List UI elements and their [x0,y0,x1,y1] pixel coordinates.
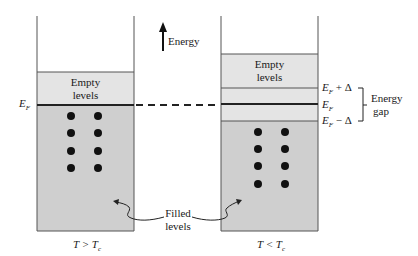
energy-gap-label-line1: Energy [371,92,403,104]
right-condition-label: T < Tc [257,238,285,255]
energy-axis-label: Energy [168,35,200,47]
filled-label-line1: Filled [158,207,198,219]
energy-gap-bracket [358,88,367,121]
left-condition-label: T > Tc [73,238,101,255]
left-empty-label-line2: levels [37,89,134,101]
left-empty-label-line1: Empty [37,76,134,88]
filled-label-line2: levels [158,220,198,232]
right-fermi-label: EF [322,98,333,115]
right-empty-label-line2: levels [221,71,318,83]
right-empty-label-line1: Empty [221,58,318,70]
left-fermi-label: EF [19,97,30,114]
energy-arrow-icon [159,22,167,51]
left-filled-levels-region [37,105,134,231]
lower-gap-label: EF − Δ [322,114,352,131]
left-panel [37,16,134,231]
energy-gap-label-line2: gap [373,105,389,117]
diagram-canvas [0,0,418,256]
right-panel [221,16,318,231]
upper-gap-label: EF + Δ [322,81,352,98]
right-filled-levels-region [221,121,318,231]
